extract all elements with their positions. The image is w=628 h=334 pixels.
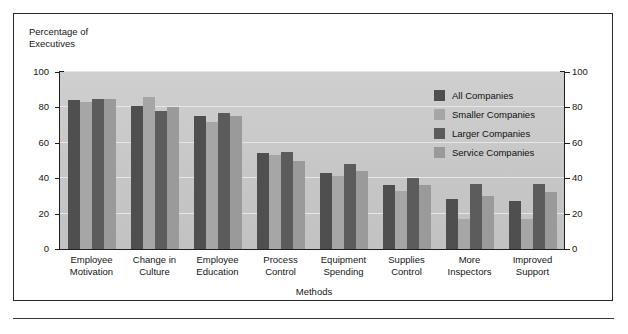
legend-label: Smaller Companies xyxy=(452,109,535,120)
gridline xyxy=(60,71,564,72)
bar xyxy=(332,176,344,249)
bar xyxy=(92,99,104,249)
bar xyxy=(80,102,92,249)
x-axis-category-label: Improved Support xyxy=(495,254,570,277)
bar xyxy=(167,107,179,249)
legend-item: Service Companies xyxy=(434,143,535,162)
y-axis-tick-right xyxy=(565,178,570,179)
y-axis-tick-right xyxy=(565,143,570,144)
y-axis-title: Percentage of Executives xyxy=(29,26,88,49)
legend-item: Larger Companies xyxy=(434,124,535,143)
y-axis-tick-right xyxy=(565,214,570,215)
y-axis-tick-label-right: 40 xyxy=(572,173,612,183)
legend-item: All Companies xyxy=(434,86,535,105)
bar xyxy=(458,219,470,249)
bar xyxy=(545,192,557,249)
chart-legend: All CompaniesSmaller CompaniesLarger Com… xyxy=(434,86,535,162)
bar xyxy=(131,106,143,249)
bar xyxy=(482,196,494,249)
y-axis-tick-label-right: 100 xyxy=(572,67,612,77)
bar xyxy=(293,161,305,250)
y-axis-tick-label-left: 60 xyxy=(9,138,49,148)
legend-swatch-icon xyxy=(434,109,445,120)
bar xyxy=(356,171,368,249)
y-axis-tick-left xyxy=(55,72,60,73)
bar xyxy=(269,155,281,249)
y-axis-tick-right xyxy=(565,72,570,73)
legend-swatch-icon xyxy=(434,147,445,158)
legend-label: Service Companies xyxy=(452,147,534,158)
bar xyxy=(521,219,533,249)
y-axis-tick-label-right: 80 xyxy=(572,102,612,112)
bar xyxy=(155,111,167,249)
bar xyxy=(206,122,218,249)
y-axis-tick-left xyxy=(55,107,60,108)
bar xyxy=(230,116,242,249)
y-axis-tick-left xyxy=(55,143,60,144)
y-axis-tick-label-left: 40 xyxy=(9,173,49,183)
figure-container: Percentage of Executives 002020404060608… xyxy=(0,0,628,334)
bar xyxy=(104,99,116,249)
bar xyxy=(395,191,407,249)
y-axis-tick-label-right: 0 xyxy=(572,244,612,254)
bar xyxy=(509,201,521,249)
bar xyxy=(419,185,431,249)
y-axis-tick-left xyxy=(55,178,60,179)
legend-swatch-icon xyxy=(434,90,445,101)
y-axis-left-line xyxy=(59,71,60,250)
bar xyxy=(470,184,482,249)
x-axis-line xyxy=(59,249,565,250)
bar xyxy=(143,97,155,249)
bar xyxy=(68,100,80,249)
legend-label: Larger Companies xyxy=(452,128,530,139)
x-axis-title: Methods xyxy=(0,286,628,297)
legend-label: All Companies xyxy=(452,90,513,101)
y-axis-tick-label-left: 0 xyxy=(9,244,49,254)
y-axis-tick-left xyxy=(55,249,60,250)
bar xyxy=(281,152,293,249)
y-axis-right-line xyxy=(564,71,565,250)
bar xyxy=(218,113,230,249)
legend-item: Smaller Companies xyxy=(434,105,535,124)
bottom-rule xyxy=(13,318,614,319)
bar xyxy=(407,178,419,249)
y-axis-tick-left xyxy=(55,214,60,215)
y-axis-tick-label-left: 20 xyxy=(9,209,49,219)
y-axis-tick-label-right: 60 xyxy=(572,138,612,148)
bar xyxy=(344,164,356,249)
legend-swatch-icon xyxy=(434,128,445,139)
bar xyxy=(320,173,332,249)
bar xyxy=(446,199,458,249)
bar xyxy=(194,116,206,249)
y-axis-tick-label-left: 100 xyxy=(9,67,49,77)
y-axis-tick-right xyxy=(565,107,570,108)
bar xyxy=(257,153,269,249)
y-axis-tick-right xyxy=(565,249,570,250)
y-axis-tick-label-right: 20 xyxy=(572,209,612,219)
bar xyxy=(533,184,545,249)
y-axis-tick-label-left: 80 xyxy=(9,102,49,112)
bar xyxy=(383,185,395,249)
